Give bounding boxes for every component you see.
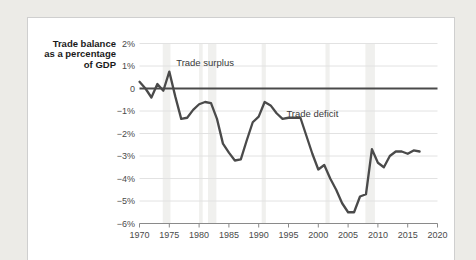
trade-balance-line xyxy=(140,72,420,213)
chart-annotation: Trade deficit xyxy=(286,108,338,119)
y-axis-tick-label: 1% xyxy=(122,61,135,71)
y-axis-tick-label: −5% xyxy=(117,196,135,206)
y-axis-tick-label: −1% xyxy=(117,106,135,116)
x-axis-tick-label-group: 1970197519801985199019952000200520102015… xyxy=(129,230,447,240)
y-axis-title-line: of GDP xyxy=(84,59,117,70)
y-axis-title: Trade balanceas a percentageof GDP xyxy=(44,38,116,70)
y-axis-title-line: Trade balance xyxy=(53,38,116,49)
data-series-line xyxy=(140,72,420,213)
y-axis-tick-label: 2% xyxy=(122,39,135,49)
x-axis-tick-label: 1980 xyxy=(189,230,209,240)
x-axis-tick-label: 1985 xyxy=(219,230,239,240)
y-axis-title-line: as a percentage xyxy=(44,48,116,59)
x-axis-tick-label: 2010 xyxy=(368,230,388,240)
y-axis-tick-label: −3% xyxy=(117,151,135,161)
x-axis-tick-label: 2020 xyxy=(427,230,447,240)
y-axis-tick-label: 0 xyxy=(130,84,135,94)
x-axis xyxy=(140,224,438,228)
x-axis-tick-label: 1975 xyxy=(159,230,179,240)
x-axis-tick-label: 2000 xyxy=(308,230,328,240)
x-axis-tick-label: 1990 xyxy=(249,230,269,240)
x-axis-tick-label: 2005 xyxy=(338,230,358,240)
x-axis-tick-label: 1995 xyxy=(278,230,298,240)
gridline-group xyxy=(140,44,438,224)
y-axis-tick-label-group: 2%1%0−1%−2%−3%−4%−5%−6% xyxy=(117,39,135,229)
y-axis-tick-label: −4% xyxy=(117,174,135,184)
y-axis-tick-label: −2% xyxy=(117,129,135,139)
chart-annotation: Trade surplus xyxy=(176,57,234,68)
trade-balance-chart: 2%1%0−1%−2%−3%−4%−5%−6% 1970197519801985… xyxy=(0,0,476,260)
x-axis-tick-label: 2015 xyxy=(398,230,418,240)
x-axis-tick-label: 1970 xyxy=(129,230,149,240)
y-axis-tick-label: −6% xyxy=(117,219,135,229)
